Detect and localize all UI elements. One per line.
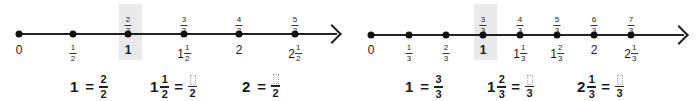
denominator: 2 — [185, 55, 189, 63]
denominator: 2 — [101, 89, 107, 100]
equation: 213=3 — [577, 74, 624, 100]
numerator: 4 — [237, 16, 241, 24]
fraction: 23 — [443, 44, 450, 63]
fraction: 2 — [271, 74, 280, 99]
fraction: 33 — [434, 74, 443, 100]
value-label-bottom: 0 — [368, 44, 375, 56]
tick-point — [368, 32, 375, 39]
whole-number: 0 — [368, 44, 375, 56]
whole-number: 2 — [624, 48, 631, 60]
value-label-bottom: 1 — [125, 44, 132, 56]
answer-blank[interactable] — [617, 75, 623, 85]
denominator: 3 — [589, 89, 595, 100]
fraction-label-top: 63 — [591, 8, 598, 35]
equals-sign: = — [511, 78, 520, 95]
fraction: 13 — [631, 44, 638, 63]
denominator: 3 — [558, 55, 562, 63]
fraction: 32 — [181, 16, 188, 35]
numerator: 1 — [296, 44, 300, 52]
whole-number: 1 — [513, 48, 520, 60]
numerator: 1 — [162, 74, 168, 85]
denominator: 3 — [499, 89, 505, 100]
value-label-bottom: 23 — [443, 44, 450, 63]
denominator: 3 — [518, 27, 522, 35]
fraction: 22 — [99, 74, 108, 100]
numerator: 1 — [185, 44, 189, 52]
number-line — [371, 34, 684, 36]
fraction: 33 — [480, 16, 487, 35]
value-label-bottom: 2 — [591, 44, 598, 56]
numerator: 1 — [632, 44, 636, 52]
whole-number: 1 — [480, 44, 487, 56]
fraction-label-top: 42 — [236, 8, 243, 35]
denominator: 3 — [436, 89, 442, 100]
denominator: 3 — [632, 55, 636, 63]
denominator: 3 — [555, 27, 559, 35]
value-label-bottom: 213 — [624, 44, 638, 63]
equals-sign: = — [174, 78, 183, 95]
whole-number: 1 — [177, 48, 184, 60]
whole-number: 0 — [16, 44, 23, 56]
numerator: 1 — [71, 44, 75, 52]
numerator: 5 — [555, 16, 559, 24]
answer-blank[interactable] — [273, 74, 279, 84]
fraction: 3 — [525, 75, 534, 100]
value-label-bottom: 212 — [288, 44, 302, 63]
numerator: 2 — [499, 74, 505, 85]
denominator: 3 — [444, 55, 448, 63]
fraction: 12 — [70, 44, 77, 63]
equation: 2=2 — [242, 74, 280, 99]
numerator: 2 — [101, 74, 107, 85]
number-line — [19, 33, 337, 35]
whole-number: 2 — [577, 78, 585, 95]
equals-sign: = — [85, 78, 94, 95]
tick-point — [70, 31, 77, 38]
fraction: 12 — [160, 74, 169, 100]
fraction-label-top: 52 — [292, 8, 299, 35]
numerator: 6 — [592, 16, 596, 24]
value-label-bottom: 12 — [70, 44, 77, 63]
denominator: 3 — [521, 55, 525, 63]
whole-number: 2 — [591, 44, 598, 56]
answer-blank[interactable] — [190, 75, 196, 85]
fraction: 63 — [591, 16, 598, 35]
denominator: 3 — [617, 88, 623, 99]
denominator: 2 — [296, 55, 300, 63]
whole-number: 1 — [125, 44, 132, 56]
fraction: 2 — [188, 75, 197, 100]
fraction: 43 — [517, 16, 524, 35]
fraction: 3 — [615, 75, 624, 100]
arrow-right-icon — [322, 24, 342, 44]
equals-sign: = — [420, 78, 429, 95]
denominator: 3 — [407, 55, 411, 63]
denominator: 2 — [162, 89, 168, 100]
value-label-bottom: 112 — [177, 44, 191, 63]
denominator: 2 — [71, 55, 75, 63]
fraction-label-top: 32 — [181, 8, 188, 35]
fraction: 23 — [497, 74, 506, 100]
numerator: 2 — [558, 44, 562, 52]
arrow-right-icon — [669, 25, 689, 45]
fraction: 23 — [557, 44, 564, 63]
tick-point — [406, 32, 413, 39]
fraction: 13 — [587, 74, 596, 100]
answer-blank[interactable] — [527, 75, 533, 85]
fraction: 13 — [520, 44, 527, 63]
denominator: 3 — [629, 27, 633, 35]
denominator: 2 — [190, 88, 196, 99]
value-label-bottom: 2 — [236, 44, 243, 56]
denominator: 3 — [527, 88, 533, 99]
whole-number: 1 — [150, 78, 158, 95]
numerator: 3 — [481, 16, 485, 24]
numerator: 2 — [444, 44, 448, 52]
value-label-bottom: 123 — [550, 44, 564, 63]
whole-number: 2 — [288, 48, 295, 60]
numerator: 3 — [182, 16, 186, 24]
value-label-bottom: 0 — [16, 44, 23, 56]
tick-point — [16, 31, 23, 38]
fraction: 53 — [554, 16, 561, 35]
denominator: 3 — [592, 27, 596, 35]
fraction: 42 — [236, 16, 243, 35]
denominator: 2 — [273, 88, 279, 99]
denominator: 2 — [237, 27, 241, 35]
